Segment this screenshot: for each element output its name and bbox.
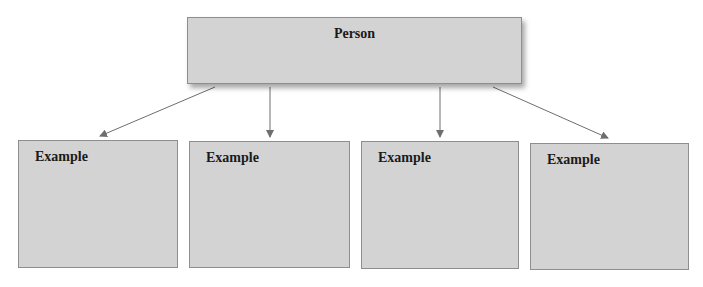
child-node-label: Example — [206, 150, 259, 166]
root-node-person: Person — [187, 17, 522, 84]
child-node-label: Example — [35, 149, 88, 165]
root-node-label: Person — [188, 26, 521, 42]
child-node-2: Example — [189, 141, 350, 268]
arrow-to-child-4 — [493, 87, 608, 138]
child-node-4: Example — [530, 143, 689, 270]
child-node-1: Example — [18, 140, 178, 268]
child-node-label: Example — [378, 150, 431, 166]
child-node-label: Example — [547, 152, 600, 168]
arrow-to-child-1 — [100, 87, 215, 136]
child-node-3: Example — [361, 141, 519, 269]
